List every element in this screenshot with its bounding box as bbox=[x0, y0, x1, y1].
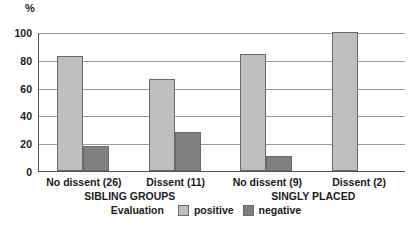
bar-negative bbox=[175, 132, 201, 171]
legend-swatch-positive bbox=[178, 205, 189, 216]
legend-label: positive bbox=[194, 204, 234, 216]
bar-positive bbox=[240, 54, 266, 171]
bar-positive bbox=[57, 56, 83, 171]
y-axis-tick-label: 100 bbox=[2, 28, 32, 39]
y-axis-tick-label: 60 bbox=[2, 83, 32, 94]
y-axis-tick-label: 20 bbox=[2, 139, 32, 150]
legend-entry-positive: positive bbox=[178, 204, 234, 216]
legend-swatch-negative bbox=[243, 205, 254, 216]
y-axis-tick-label: 40 bbox=[2, 111, 32, 122]
bar-chart: % 020406080100 No dissent (26)Dissent (1… bbox=[0, 0, 412, 229]
y-axis-unit-label: % bbox=[25, 2, 35, 14]
y-axis-tick-label: 80 bbox=[2, 55, 32, 66]
legend-title: Evaluation bbox=[111, 204, 164, 216]
bar-negative bbox=[83, 146, 109, 171]
x-axis-category-label: Dissent (2) bbox=[299, 176, 412, 188]
x-axis-group-label: SINGLY PLACED bbox=[243, 190, 383, 202]
legend-label: negative bbox=[259, 204, 302, 216]
chart-legend: Evaluation positivenegative bbox=[0, 204, 412, 216]
plot-area: 020406080100 bbox=[38, 33, 405, 172]
x-axis-group-label: SIBLING GROUPS bbox=[60, 190, 200, 202]
bar-positive bbox=[149, 79, 175, 171]
legend-entry-negative: negative bbox=[243, 204, 302, 216]
bar-negative bbox=[266, 156, 292, 171]
bar-positive bbox=[332, 32, 358, 171]
